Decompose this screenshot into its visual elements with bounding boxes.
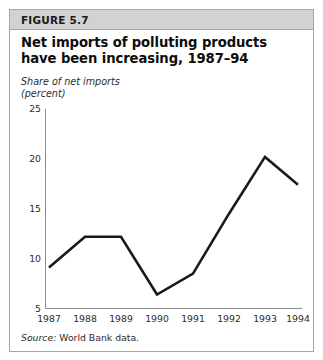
line-chart-svg: 25 20 15 10 5 1987 1988 1989 1990 1991 1… xyxy=(10,10,315,353)
y-tick-label: 5 xyxy=(35,303,41,314)
figure-frame: FIGURE 5.7 Net imports of polluting prod… xyxy=(9,9,314,352)
x-tick-label: 1991 xyxy=(181,313,205,324)
chart-plot-area: 25 20 15 10 5 1987 1988 1989 1990 1991 1… xyxy=(10,10,315,353)
source-value: World Bank data. xyxy=(56,332,139,343)
y-axis-tick-labels: 25 20 15 10 5 xyxy=(29,103,41,314)
data-series-line xyxy=(49,157,298,295)
x-tick-label: 1987 xyxy=(37,313,61,324)
x-axis-tick-labels: 1987 1988 1989 1990 1991 1992 1993 1994 xyxy=(37,313,310,324)
figure-container: FIGURE 5.7 Net imports of polluting prod… xyxy=(0,0,323,360)
y-tick-label: 15 xyxy=(29,203,41,214)
source-note: Source: World Bank data. xyxy=(21,332,139,343)
y-tick-label: 10 xyxy=(29,253,41,264)
y-tick-label: 20 xyxy=(29,153,41,164)
x-tick-label: 1994 xyxy=(286,313,310,324)
x-tick-label: 1990 xyxy=(145,313,169,324)
x-tick-label: 1989 xyxy=(109,313,133,324)
y-tick-label: 25 xyxy=(29,103,41,114)
x-tick-label: 1992 xyxy=(217,313,241,324)
source-label: Source: xyxy=(21,332,56,343)
x-tick-label: 1993 xyxy=(253,313,277,324)
x-tick-label: 1988 xyxy=(73,313,97,324)
